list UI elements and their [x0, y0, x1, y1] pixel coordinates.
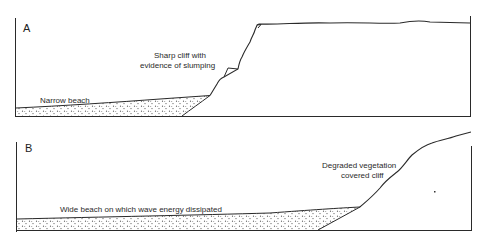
cliff-a-label-line2: evidence of slumping: [140, 61, 215, 70]
speck: [434, 191, 436, 193]
beach-b-label: Wide beach on which wave energy dissipat…: [60, 205, 222, 214]
panel-b: B Degraded vegetation covered cliff Wide…: [16, 132, 472, 232]
panel-b-letter: B: [25, 142, 32, 154]
slump-block-upper: [257, 25, 261, 29]
cliff-a-label-line1: Sharp cliff with: [154, 51, 206, 60]
beach-a-label: Narrow beach: [40, 96, 90, 105]
panel-a-letter: A: [23, 22, 31, 34]
cliff-b-label-line2: covered cliff: [341, 171, 384, 180]
panel-a: A Sharp cliff with evidence of slumping …: [15, 16, 471, 117]
sharp-cliff-profile: [210, 21, 470, 96]
coastal-profile-diagram: A Sharp cliff with evidence of slumping …: [0, 0, 485, 242]
cliff-b-label-line1: Degraded vegetation: [322, 161, 396, 170]
